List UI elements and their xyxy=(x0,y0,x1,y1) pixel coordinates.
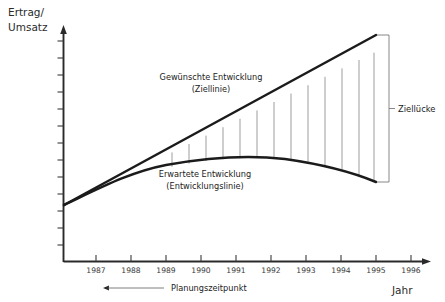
gap-label: Ziellücke xyxy=(398,104,436,114)
y-axis-arrow-icon xyxy=(60,25,67,34)
target-line-annotation-line1: Gewünschte Entwicklung xyxy=(160,72,263,82)
y-axis-label-line1: Ertrag/ xyxy=(8,6,44,18)
x-tick-label: 1996 xyxy=(401,266,420,275)
x-tick-labels: 1987 1988 1989 1990 1991 1992 1993 1994 … xyxy=(86,266,420,275)
bracket-path xyxy=(377,35,389,182)
x-tick-label: 1991 xyxy=(226,266,245,275)
y-axis-label-line2: Umsatz xyxy=(8,21,48,33)
target-line-series xyxy=(64,35,376,205)
x-tick-label: 1994 xyxy=(331,266,350,275)
expected-line-annotation-line2: (Entwicklungslinie) xyxy=(166,181,243,191)
x-axis-arrow-icon xyxy=(422,258,431,265)
x-tick-label: 1992 xyxy=(261,266,280,275)
y-axis-group: Ertrag/ Umsatz xyxy=(8,6,67,262)
expected-line-annotation-line1: Erwartete Entwicklung xyxy=(159,169,251,179)
x-tick-label: 1987 xyxy=(86,266,105,275)
target-line-annotation: Gewünschte Entwicklung (Ziellinie) xyxy=(160,72,263,94)
x-tick-label: 1995 xyxy=(366,266,385,275)
x-axis-label: Jahr xyxy=(391,284,413,296)
chart-page: Ertrag/ Umsatz 1987 1988 19 xyxy=(0,0,445,302)
expected-line-annotation: Erwartete Entwicklung (Entwicklungslinie… xyxy=(159,169,251,191)
x-tick-label: 1990 xyxy=(191,266,210,275)
x-tick-label: 1989 xyxy=(156,266,175,275)
planning-point-annotation: Planungszeitpunkt xyxy=(103,283,247,293)
x-tick-label: 1988 xyxy=(121,266,140,275)
target-gap-chart: Ertrag/ Umsatz 1987 1988 19 xyxy=(0,0,445,302)
x-tick-marks xyxy=(96,255,411,262)
x-tick-label: 1993 xyxy=(296,266,315,275)
target-line-annotation-line2: (Ziellinie) xyxy=(192,84,231,94)
target-gap-bracket: Ziellücke xyxy=(377,35,436,182)
x-axis-group: 1987 1988 1989 1990 1991 1992 1993 1994 … xyxy=(64,255,432,296)
planning-point-label: Planungszeitpunkt xyxy=(171,283,247,293)
